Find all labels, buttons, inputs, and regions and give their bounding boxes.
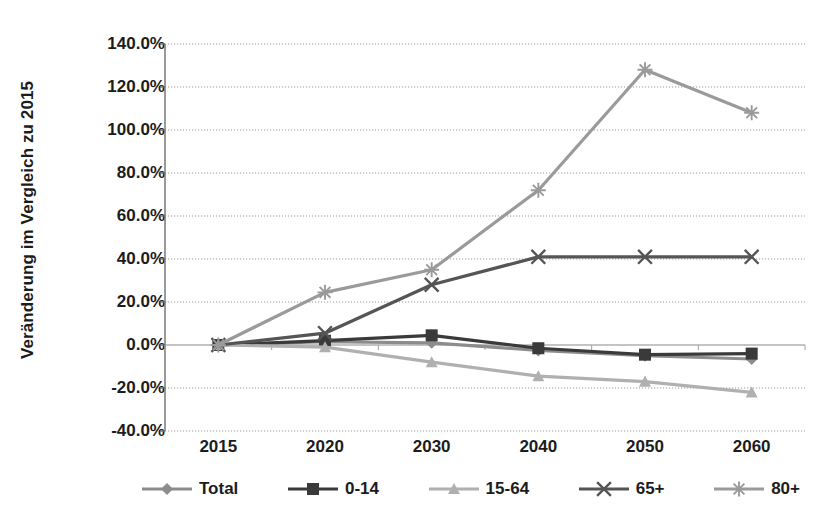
data-point-marker (211, 338, 226, 353)
marker-asterisk (211, 338, 226, 353)
data-point-marker (307, 483, 319, 495)
series-80plus (211, 62, 759, 352)
series-line (218, 257, 751, 345)
legend-swatch-triangle-icon (427, 478, 481, 500)
marker-diamond (161, 483, 173, 495)
marker-square (746, 348, 758, 360)
legend-label: 80+ (771, 479, 800, 499)
marker-square (307, 483, 319, 495)
series-line (218, 70, 751, 345)
legend-item-65plus[interactable]: 65+ (577, 478, 665, 500)
data-point-marker (318, 285, 333, 300)
marker-asterisk (531, 183, 546, 198)
legend-swatch-x-icon (577, 478, 631, 500)
plot-area (0, 0, 819, 529)
legend-label: 15-64 (486, 479, 529, 499)
marker-square (639, 349, 651, 361)
series-total (212, 336, 757, 365)
legend-item-total[interactable]: Total (140, 478, 238, 500)
data-point-marker (424, 262, 439, 277)
marker-asterisk (318, 285, 333, 300)
data-point-marker (732, 482, 747, 497)
marker-square (532, 342, 544, 354)
series-line (218, 342, 751, 359)
data-point-marker (746, 348, 758, 360)
line-chart: Veränderung im Vergleich zu 2015 140.0%1… (0, 0, 819, 529)
data-point-marker (531, 183, 546, 198)
legend-label: 0-14 (345, 479, 379, 499)
legend-label: 65+ (636, 479, 665, 499)
marker-asterisk (424, 262, 439, 277)
data-point-marker (638, 62, 653, 77)
legend-swatch-asterisk-icon (712, 478, 766, 500)
legend-item-15-64[interactable]: 15-64 (427, 478, 529, 500)
data-point-marker (639, 349, 651, 361)
legend-item-80plus[interactable]: 80+ (712, 478, 800, 500)
legend-swatch-square-icon (286, 478, 340, 500)
marker-asterisk (744, 105, 759, 120)
chart-legend: Total0-1415-6465+80+ (140, 472, 800, 506)
data-point-marker (744, 105, 759, 120)
series-65plus (211, 250, 758, 352)
series-line (218, 345, 751, 392)
legend-item-0-14[interactable]: 0-14 (286, 478, 379, 500)
data-point-marker (426, 329, 438, 341)
marker-asterisk (638, 62, 653, 77)
marker-asterisk (732, 482, 747, 497)
data-point-marker (532, 342, 544, 354)
legend-label: Total (199, 479, 238, 499)
marker-square (426, 329, 438, 341)
data-point-marker (161, 483, 173, 495)
legend-swatch-diamond-icon (140, 478, 194, 500)
